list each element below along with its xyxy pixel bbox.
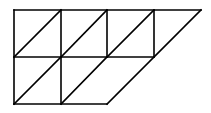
diagonal-bottom-1: [14, 57, 61, 104]
diagonal-top-3: [107, 10, 154, 57]
diagonal-top-1: [14, 10, 61, 57]
diagonal-bottom-2: [61, 57, 107, 104]
diagonal-top-2: [61, 10, 107, 57]
triangle-grid-diagram: [0, 0, 211, 113]
